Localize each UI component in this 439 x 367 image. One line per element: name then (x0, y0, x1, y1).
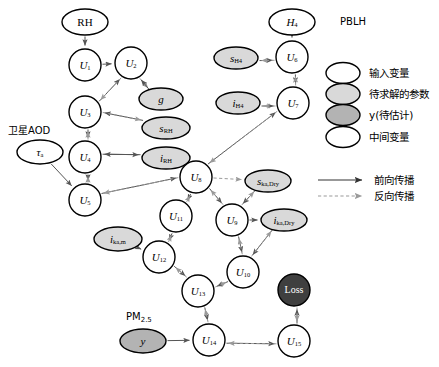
node-layer: RHU1U2gU3sRHτaU4iRHU5H4U6sH4U7iH4U8ska,D… (17, 9, 315, 357)
edge-tau-u5 (51, 164, 72, 186)
legend-solved-parameter: 待求解的参数 (326, 84, 430, 105)
node-u13[interactable]: U13 (182, 275, 214, 307)
legend-forward-propagation: 前向传播 (318, 174, 415, 186)
legend-solved-parameter-swatch (326, 84, 360, 105)
node-tau[interactable]: τa (17, 140, 63, 164)
legend-target-estimate: y(待估计) (326, 105, 413, 126)
node-loss-label: Loss (285, 284, 304, 295)
legend-input-variable-swatch (326, 63, 360, 84)
node-loss[interactable]: Loss (278, 274, 310, 306)
legend-intermediate-label: 中间变量 (369, 131, 410, 143)
edge-g-u2-bwd (141, 80, 149, 90)
node-ikadry[interactable]: ika,Dry (261, 209, 307, 231)
node-u10[interactable]: U10 (227, 256, 259, 288)
edge-u14-u15-fwd (226, 343, 274, 344)
legend-input-variable: 输入变量 (326, 63, 410, 84)
edge-u8-ska-bwd (213, 178, 241, 180)
edge-u9-u10-fwd (239, 237, 242, 253)
node-u14[interactable]: U14 (193, 324, 225, 356)
node-u2[interactable]: U2 (115, 47, 147, 79)
node-y[interactable]: y (120, 329, 166, 353)
node-ih4[interactable]: iH4 (216, 92, 260, 114)
edge-u12-u13-fwd (174, 266, 185, 276)
edge-u10-u9-bwd (239, 238, 242, 254)
node-rh-label: RH (77, 15, 92, 27)
node-irh[interactable]: iRH (142, 147, 190, 169)
legend-intermediate: 中间变量 (326, 127, 410, 148)
satellite-aod-label: 卫星AOD (8, 125, 51, 136)
node-u1[interactable]: U1 (69, 49, 101, 81)
edge-u14-u13-bwd (205, 309, 208, 322)
legend-forward-propagation-label: 前向传播 (374, 174, 415, 186)
node-u3[interactable]: U3 (69, 96, 101, 128)
legend-target-estimate-swatch (326, 105, 360, 126)
edge-u13-u12-bwd (176, 268, 187, 278)
network-diagram-figure: RHU1U2gU3sRHτaU4iRHU5H4U6sH4U7iH4U8ska,D… (0, 0, 439, 367)
legend-target-estimate-label: y(待估计) (369, 109, 413, 121)
legend-solved-parameter-label: 待求解的参数 (369, 88, 430, 100)
node-u9[interactable]: U9 (216, 204, 248, 236)
node-u4[interactable]: U4 (69, 141, 101, 173)
pm25-label: PM2.5 (126, 311, 152, 324)
node-u8[interactable]: U8 (180, 161, 212, 193)
node-g-label: g (158, 92, 164, 104)
node-u12[interactable]: U12 (143, 241, 175, 273)
node-u6[interactable]: U6 (276, 41, 308, 73)
node-ikaam[interactable]: ika,m (94, 227, 142, 251)
node-u11[interactable]: U11 (160, 200, 192, 232)
node-u15[interactable]: U15 (278, 325, 310, 357)
node-u7[interactable]: U7 (277, 87, 309, 119)
node-h4[interactable]: H4 (269, 9, 315, 35)
node-rh[interactable]: RH (62, 9, 108, 35)
edge-ikam-u12 (137, 248, 141, 250)
node-srh[interactable]: sRH (142, 117, 190, 139)
legend-backward-propagation-label: 反向传播 (374, 190, 415, 202)
node-u5[interactable]: U5 (69, 184, 101, 216)
legend-intermediate-swatch (326, 127, 360, 148)
legend-input-variable-label: 输入变量 (369, 67, 410, 79)
node-sh4[interactable]: sH4 (214, 47, 258, 69)
legend-backward-propagation: 反向传播 (318, 190, 415, 202)
diagram-svg: RHU1U2gU3sRHτaU4iRHU5H4U6sH4U7iH4U8ska,D… (0, 0, 439, 367)
node-g[interactable]: g (139, 88, 183, 110)
legend-layer: 输入变量待求解的参数y(待估计)中间变量前向传播反向传播 (318, 63, 430, 202)
node-y-label: y (140, 334, 146, 346)
pblh-label: PBLH (340, 16, 366, 27)
node-skadry[interactable]: ska,Dry (245, 170, 291, 192)
edge-u15-u14-bwd (228, 343, 276, 344)
